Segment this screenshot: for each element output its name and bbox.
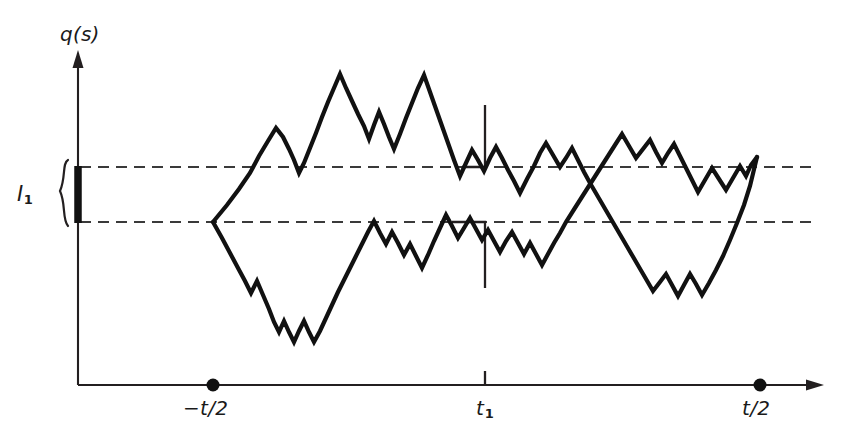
random-walk-figure [0, 0, 865, 440]
x-tick-label-t-half: t/2 [742, 398, 770, 418]
axis-markers-group [207, 371, 767, 392]
x-axis-arrowhead [806, 380, 824, 391]
interval-label-I1: I1 [17, 184, 33, 206]
interval-label-main: I [17, 182, 23, 206]
t1-bracket-group [452, 105, 485, 288]
x-tick-label-t1-sub: 1 [485, 406, 494, 421]
y-axis-label: q(s) [60, 24, 100, 44]
tick-marker-t-half [754, 379, 767, 392]
t1-bracket-upper [462, 105, 485, 167]
figure-canvas: q(s) I1 −t/2 t1 t/2 [0, 0, 865, 440]
tick-marker-minus-t-half [207, 379, 220, 392]
interval-brace-icon [60, 160, 68, 226]
x-tick-label-t1-main: t [476, 396, 484, 420]
y-axis-arrowhead [73, 50, 84, 68]
x-tick-label-minus-t-half: −t/2 [183, 398, 228, 418]
x-tick-label-t1: t1 [476, 398, 494, 420]
interval-label-sub: 1 [24, 192, 33, 207]
